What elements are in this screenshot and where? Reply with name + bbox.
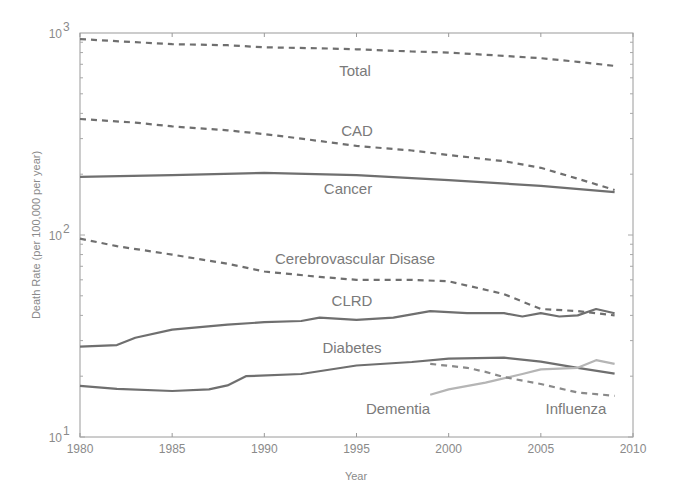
x-tick-label: 1985 [159, 442, 186, 456]
series-label-cancer: Cancer [324, 180, 372, 197]
y-axis-label: Death Rate (per 100,000 per year) [30, 151, 42, 319]
series-label-clrd: CLRD [332, 292, 373, 309]
series-label-cad: CAD [341, 122, 373, 139]
death-rate-chart: 1980198519901995200020052010101102103 To… [0, 0, 674, 497]
series-line-diabetes [80, 358, 615, 391]
series-label-dementia: Dementia [366, 400, 431, 417]
x-tick-label: 1980 [67, 442, 94, 456]
series-label-total: Total [339, 62, 371, 79]
series-line-dementia [430, 360, 614, 395]
y-tick-label: 10 [49, 27, 63, 41]
series-label-diabetes: Diabetes [322, 339, 381, 356]
x-tick-label: 1990 [251, 442, 278, 456]
y-tick-exponent: 3 [63, 20, 70, 34]
plot-frame [80, 33, 633, 437]
y-tick-label: 10 [49, 229, 63, 243]
y-tick-exponent: 2 [63, 222, 70, 236]
plot-box [80, 33, 633, 437]
series-label-cerebrovascular-disase: Cerebrovascular Disase [275, 250, 435, 267]
y-tick-label: 10 [49, 431, 63, 445]
y-tick-exponent: 1 [63, 424, 70, 438]
series-label-influenza: Influenza [546, 400, 608, 417]
x-tick-label: 2000 [435, 442, 462, 456]
x-tick-label: 2010 [620, 442, 647, 456]
x-tick-label: 2005 [527, 442, 554, 456]
x-tick-label: 1995 [343, 442, 370, 456]
x-axis-label: Year [345, 470, 368, 482]
